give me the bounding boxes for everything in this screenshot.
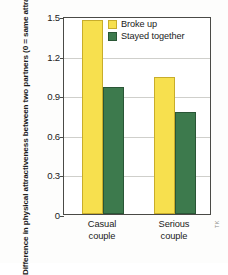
bar-group bbox=[82, 18, 124, 214]
y-tick-label: 1.2 bbox=[34, 51, 60, 62]
x-category-line: Serious bbox=[144, 219, 204, 231]
bar-group bbox=[154, 18, 196, 214]
bar-stayed-together bbox=[103, 87, 124, 214]
bar-broke-up bbox=[82, 20, 103, 214]
y-axis-tick-labels: 00.30.60.91.21.5 bbox=[34, 0, 60, 263]
chart-legend: Broke up Stayed together bbox=[108, 19, 184, 41]
bar-stayed-together bbox=[175, 112, 196, 214]
y-tick-label: 1.5 bbox=[34, 12, 60, 23]
x-category-label: Casualcouple bbox=[72, 219, 132, 242]
x-category-line: Casual bbox=[72, 219, 132, 231]
legend-label-broke-up: Broke up bbox=[121, 19, 157, 29]
y-tick-mark bbox=[60, 216, 64, 217]
y-tick-label: 0.9 bbox=[34, 91, 60, 102]
legend-label-stayed-together: Stayed together bbox=[121, 31, 184, 41]
x-category-line: couple bbox=[144, 231, 204, 243]
y-tick-label: 0.6 bbox=[34, 130, 60, 141]
credit-mark: TK bbox=[214, 220, 220, 228]
legend-item-broke-up: Broke up bbox=[108, 19, 184, 29]
y-tick-label: 0.3 bbox=[34, 170, 60, 181]
legend-item-stayed-together: Stayed together bbox=[108, 31, 184, 41]
x-category-line: couple bbox=[72, 231, 132, 243]
x-category-label: Seriouscouple bbox=[144, 219, 204, 242]
legend-swatch-stayed-together-icon bbox=[108, 32, 117, 41]
bar-broke-up bbox=[154, 77, 175, 214]
x-axis-category-labels: CasualcoupleSeriouscouple bbox=[63, 219, 211, 249]
y-tick-label: 0 bbox=[34, 210, 60, 221]
y-axis-title-text: Difference in physical attractiveness be… bbox=[21, 0, 32, 275]
bar-series-container bbox=[64, 18, 210, 214]
plot-area bbox=[63, 17, 211, 215]
legend-swatch-broke-up-icon bbox=[108, 20, 117, 29]
